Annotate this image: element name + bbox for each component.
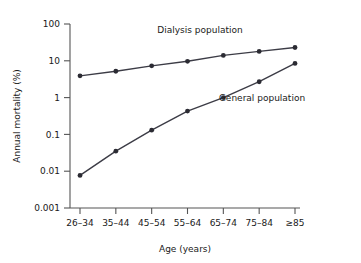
- data-point-marker: [257, 49, 262, 54]
- y-tick-label: 1: [54, 93, 60, 103]
- y-axis-title: Annual mortality (%): [12, 69, 22, 162]
- x-tick-label: 35–44: [102, 218, 130, 228]
- data-point-marker: [113, 149, 118, 154]
- y-tick-label: 10: [49, 56, 61, 66]
- data-point-marker: [149, 63, 154, 68]
- x-tick-label: 65–74: [210, 218, 238, 228]
- data-point-marker: [113, 69, 118, 74]
- x-tick-label: 26–34: [66, 218, 94, 228]
- data-point-marker: [185, 109, 190, 114]
- data-point-marker: [149, 128, 154, 133]
- x-tick-label: 75–84: [245, 218, 273, 228]
- data-point-marker: [78, 73, 83, 78]
- data-point-marker: [257, 79, 262, 84]
- data-point-marker: [293, 45, 298, 50]
- chart-canvas: 0.0010.010.1110100 26–3435–4445–5455–646…: [0, 0, 361, 263]
- x-axis-title: Age (years): [159, 244, 211, 254]
- data-point-marker: [78, 173, 83, 178]
- y-tick-label: 100: [43, 19, 60, 29]
- series-annotation-1: Dialysis population: [157, 25, 242, 35]
- x-tick-label: 45–54: [138, 218, 166, 228]
- x-tick-label: ≥85: [286, 218, 305, 228]
- data-point-marker: [185, 59, 190, 64]
- y-tick-label: 0.001: [34, 203, 60, 213]
- y-tick-label: 0.1: [46, 130, 60, 140]
- data-point-marker: [221, 53, 226, 58]
- mortality-by-age-chart: 0.0010.010.1110100 26–3435–4445–5455–646…: [0, 0, 361, 263]
- x-tick-label: 55–64: [174, 218, 202, 228]
- series-annotation-2: General population: [219, 93, 305, 103]
- y-tick-label: 0.01: [40, 166, 60, 176]
- data-point-marker: [293, 61, 298, 66]
